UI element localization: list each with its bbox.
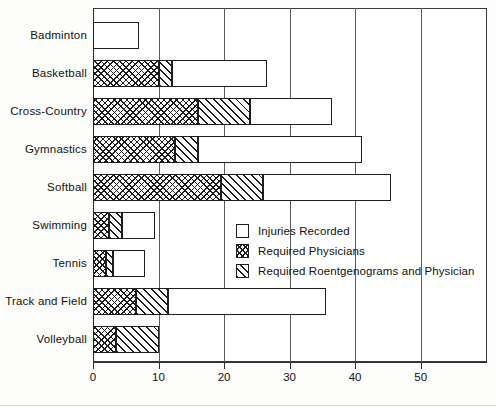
- category-label: Swimming: [32, 219, 87, 231]
- x-tick: [159, 362, 160, 369]
- x-tick-label: 10: [152, 371, 165, 383]
- legend-item: Required Roentgenograms and Physician: [236, 261, 482, 281]
- legend-item: Injuries Recorded: [236, 221, 482, 241]
- chart-legend: Injuries RecordedRequired PhysiciansRequ…: [236, 221, 482, 281]
- x-tick: [421, 362, 422, 369]
- page-edge-line: [0, 405, 496, 406]
- category-label: Volleyball: [36, 333, 87, 345]
- x-tick-label: 20: [218, 371, 231, 383]
- x-tick: [290, 362, 291, 369]
- chart-page: BadmintonBasketballCross-CountryGymnasti…: [0, 0, 496, 408]
- x-tick-label: 0: [90, 371, 96, 383]
- legend-item: Required Physicians: [236, 241, 482, 261]
- x-tick: [224, 362, 225, 369]
- category-label: Track and Field: [5, 295, 87, 307]
- category-label: Gymnastics: [25, 143, 87, 155]
- category-label: Softball: [47, 181, 87, 193]
- x-tick: [355, 362, 356, 369]
- category-label: Basketball: [32, 67, 87, 79]
- legend-label: Required Physicians: [258, 245, 365, 257]
- x-tick-label: 30: [283, 371, 296, 383]
- x-tick-label: 50: [414, 371, 427, 383]
- category-label: Cross-Country: [10, 105, 87, 117]
- legend-swatch-icon: [236, 224, 249, 238]
- legend-swatch-icon: [236, 264, 249, 278]
- category-label: Badminton: [30, 29, 87, 41]
- legend-label: Required Roentgenograms and Physician: [258, 265, 475, 277]
- x-tick-label: 40: [349, 371, 362, 383]
- category-label: Tennis: [53, 257, 87, 269]
- category-axis-labels: BadmintonBasketballCross-CountryGymnasti…: [0, 8, 496, 362]
- legend-label: Injuries Recorded: [258, 225, 350, 237]
- legend-swatch-icon: [236, 244, 249, 258]
- x-tick: [93, 362, 94, 369]
